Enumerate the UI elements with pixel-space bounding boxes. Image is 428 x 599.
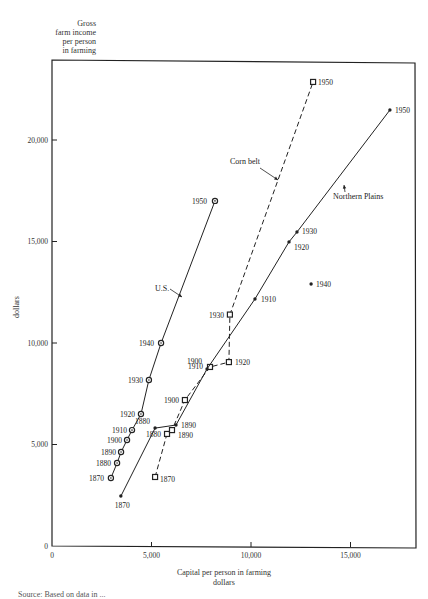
- dot-marker: [174, 423, 177, 426]
- arrowhead-icon: [343, 185, 346, 189]
- point-year-label: 1890: [101, 448, 116, 457]
- dot-marker: [153, 426, 156, 429]
- square-marker: [311, 79, 316, 84]
- square-marker: [169, 428, 174, 433]
- square-marker: [226, 360, 231, 365]
- square-marker: [153, 474, 158, 479]
- source-note: Source: Based on data in ...: [18, 590, 106, 599]
- point-year-label: 1870: [115, 501, 130, 510]
- point-year-label: 1920: [120, 410, 135, 419]
- point-year-label: 1940: [139, 339, 154, 348]
- dot-marker: [119, 494, 122, 497]
- circle-marker-center: [116, 462, 118, 464]
- circle-marker-center: [140, 413, 142, 415]
- circle-marker-center: [214, 200, 216, 202]
- point-year-label: 1950: [192, 197, 207, 206]
- x-axis-title: Capital per person in farming dollars: [0, 568, 428, 588]
- x-tick-label: 10,000: [241, 551, 262, 560]
- point-year-label: 1940: [316, 280, 331, 289]
- point-year-label: 1910: [261, 295, 276, 304]
- arrowhead-icon: [274, 177, 278, 180]
- point-year-label: 1890: [178, 431, 193, 440]
- square-marker: [165, 431, 170, 436]
- point-year-label: 1910: [112, 426, 127, 435]
- x-tick-label: 5,000: [143, 551, 160, 560]
- circle-marker-center: [160, 342, 162, 344]
- dot-marker: [295, 230, 298, 233]
- point-year-label: 1920: [235, 358, 250, 367]
- circle-marker-center: [110, 477, 112, 479]
- series-annotation: U.S.: [155, 284, 169, 293]
- y-tick-label: 0: [44, 542, 48, 551]
- point-year-label: 1930: [128, 376, 143, 385]
- point-year-label: 1930: [302, 227, 317, 236]
- dot-marker: [388, 108, 391, 111]
- y-tick-label: 5,000: [31, 440, 48, 449]
- square-marker: [227, 312, 232, 317]
- y-tick-label: 10,000: [27, 339, 48, 348]
- square-marker: [182, 398, 187, 403]
- series-line-corn-belt: [155, 82, 313, 477]
- series-annotation: Corn belt: [230, 157, 261, 166]
- dot-marker: [205, 367, 208, 370]
- dot-marker: [253, 297, 256, 300]
- circle-marker-center: [131, 429, 133, 431]
- point-year-label: 1900: [107, 436, 122, 445]
- y-tick-label: 15,000: [27, 237, 48, 246]
- x-tick-label: 15,000: [340, 551, 361, 560]
- point-year-label: 1870: [89, 474, 104, 483]
- point-year-label: 1880: [96, 459, 111, 468]
- circle-marker-center: [126, 439, 128, 441]
- circle-marker-center: [120, 451, 122, 453]
- point-year-label: 1900: [187, 357, 202, 366]
- arrowhead-icon: [178, 294, 182, 297]
- point-year-label: 1930: [209, 311, 224, 320]
- point-year-label: 1880: [135, 417, 150, 426]
- point-year-label: 1950: [318, 78, 333, 87]
- dot-marker: [287, 240, 290, 243]
- series-line-northern-plains: [121, 110, 390, 496]
- point-year-label: 1890: [181, 421, 196, 430]
- x-axis-title-main: Capital per person in farming: [0, 568, 428, 578]
- point-year-label: 1870: [160, 475, 175, 484]
- x-axis-title-unit: dollars: [0, 578, 428, 588]
- point-year-label: 1920: [294, 243, 309, 252]
- point-year-label: 1950: [395, 106, 410, 115]
- series-line-u-s-: [111, 201, 215, 478]
- x-tick-label: 0: [50, 551, 54, 560]
- y-tick-label: 20,000: [27, 136, 48, 145]
- point-year-label: 1900: [164, 396, 179, 405]
- dot-marker: [309, 282, 312, 285]
- circle-marker-center: [148, 379, 150, 381]
- series-annotation: Northern Plains: [333, 192, 383, 201]
